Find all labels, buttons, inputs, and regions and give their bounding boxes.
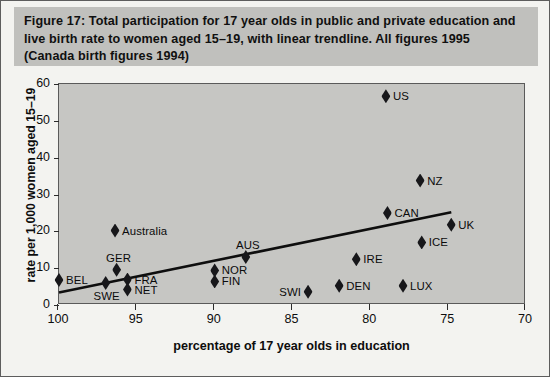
x-tick-label: 80 <box>362 312 376 326</box>
x-tick-label: 95 <box>129 312 143 326</box>
x-tick-label: 85 <box>284 312 298 326</box>
data-point-label: DEN <box>346 280 370 292</box>
y-tick-label: 40 <box>36 150 50 164</box>
data-point-label: GER <box>106 252 131 264</box>
y-tick-label: 30 <box>36 187 50 201</box>
figure-caption: Figure 17: Total participation for 17 ye… <box>14 7 538 66</box>
x-axis: 100959085807570 <box>58 304 525 334</box>
x-tick-label: 90 <box>207 312 221 326</box>
y-tick-mark <box>54 158 59 159</box>
data-point-label: AUS <box>236 239 260 251</box>
data-point-label: FIN <box>222 275 241 287</box>
data-point-label: US <box>393 90 409 102</box>
y-tick-label: 0 <box>43 297 50 311</box>
data-point-label: ICE <box>429 236 448 248</box>
y-tick-mark <box>54 305 59 306</box>
caption-line-3: (Canada birth figures 1994) <box>24 48 528 66</box>
caption-line-1: Figure 17: Total participation for 17 ye… <box>24 13 528 31</box>
x-tick-label: 100 <box>47 312 68 326</box>
data-point-label: NET <box>134 284 157 296</box>
y-tick-label: 10 <box>36 260 50 274</box>
data-point-label: UK <box>458 219 474 231</box>
linear-trendline <box>59 84 526 305</box>
data-point-label: SWE <box>94 290 120 302</box>
plot-area: BELSWEAustraliaGERFRANETNORFINAUSSWIDENI… <box>58 83 525 304</box>
data-point-label: CAN <box>394 207 418 219</box>
y-tick-mark <box>54 231 59 232</box>
data-point-label: LUX <box>410 280 432 292</box>
x-tick-label: 70 <box>518 312 532 326</box>
y-tick-mark <box>54 121 59 122</box>
figure-17-scatter-chart: Figure 17: Total participation for 17 ye… <box>0 0 550 377</box>
y-axis-title: rate per 1,000 women aged 15–19 <box>24 70 38 300</box>
y-tick-mark <box>54 84 59 85</box>
data-point-label: IRE <box>363 253 382 265</box>
x-axis-title: percentage of 17 year olds in education <box>58 339 525 353</box>
data-point-label: BEL <box>66 274 88 286</box>
y-tick-mark <box>54 195 59 196</box>
y-tick-label: 20 <box>36 223 50 237</box>
data-point-label: NZ <box>427 175 442 187</box>
caption-line-2: live birth rate to women aged 15–19, wit… <box>24 31 528 49</box>
y-tick-label: 60 <box>36 76 50 90</box>
data-point-label: Australia <box>122 225 167 237</box>
x-tick-label: 75 <box>440 312 454 326</box>
y-tick-label: 50 <box>36 113 50 127</box>
y-tick-mark <box>54 268 59 269</box>
data-point-label: SWI <box>279 286 301 298</box>
